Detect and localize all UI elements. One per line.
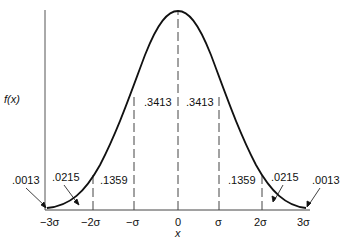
arrowhead-2-to-3 bbox=[272, 196, 276, 202]
area-label-left-tail: .0013 bbox=[12, 174, 40, 186]
area-label-2-to-3: .0215 bbox=[271, 171, 299, 183]
area-label-minus-2-to-1: .1359 bbox=[100, 174, 128, 186]
area-label-right-tail: .0013 bbox=[312, 174, 340, 186]
bell-curve bbox=[47, 11, 306, 208]
tick-minus-2sigma: −2σ bbox=[81, 216, 101, 228]
area-label-1-to-2: .1359 bbox=[228, 174, 256, 186]
tick-zero: 0 bbox=[175, 216, 181, 228]
y-axis-label: f(x) bbox=[4, 93, 20, 105]
normal-distribution-chart: f(x) x −3σ −2σ −σ 0 σ 2σ 3σ .0013 .0215 … bbox=[0, 0, 352, 248]
tick-sigma: σ bbox=[215, 216, 222, 228]
area-label-minus-3-to-2: .0215 bbox=[52, 171, 80, 183]
area-label-0-to-1: .3413 bbox=[186, 96, 214, 108]
pointer-arrows bbox=[26, 185, 320, 208]
tick-minus-sigma: −σ bbox=[126, 216, 139, 228]
tick-3sigma: 3σ bbox=[297, 216, 310, 228]
tick-2sigma: 2σ bbox=[254, 216, 267, 228]
area-labels: .0013 .0215 .1359 .3413 .3413 .1359 .021… bbox=[12, 96, 340, 186]
x-axis-label: x bbox=[174, 227, 181, 239]
area-label-minus-1-to-0: .3413 bbox=[144, 96, 172, 108]
x-tick-labels: −3σ −2σ −σ 0 σ 2σ 3σ bbox=[40, 216, 310, 228]
tick-minus-3sigma: −3σ bbox=[40, 216, 60, 228]
